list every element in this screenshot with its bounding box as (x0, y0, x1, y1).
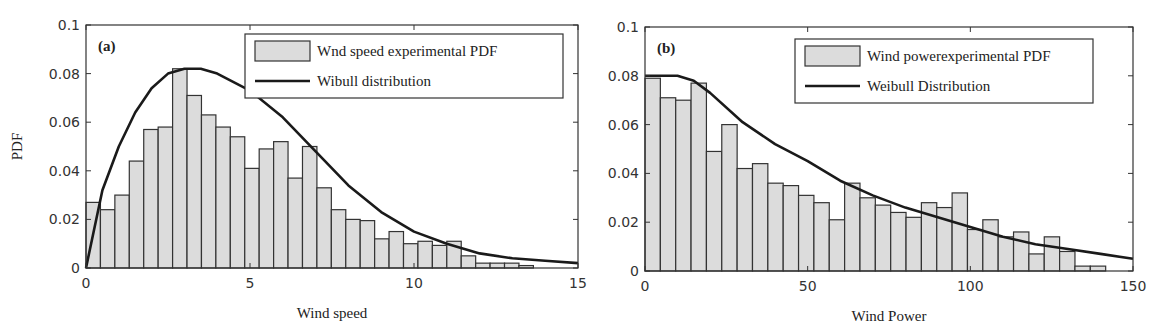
x-tick-label: 5 (246, 275, 255, 291)
histogram-bar (799, 195, 814, 271)
histogram-bar (998, 237, 1013, 271)
histogram-bar (288, 178, 302, 268)
chart-wind-power-pdf: 05010015000.020.040.060.080.1Wind Power(… (608, 19, 1147, 324)
x-tick-label: 0 (82, 275, 91, 291)
histogram-bar (115, 195, 129, 268)
legend-label: Wind powerexperimental PDF (867, 48, 1051, 64)
histogram-bar (490, 263, 504, 268)
x-tick-label: 50 (799, 278, 817, 294)
legend: Wind powerexperimental PDFWeibull Distri… (795, 39, 1093, 103)
y-tick-label: 0.02 (608, 214, 639, 230)
legend: Wnd speed experimental PDFWibull distrib… (245, 34, 563, 98)
histogram-bar (722, 125, 737, 271)
histogram-bar (100, 210, 114, 268)
histogram-bar (418, 241, 432, 268)
y-tick-label: 0 (630, 263, 639, 279)
histogram-bar (645, 78, 660, 271)
histogram-bar (1090, 266, 1105, 271)
histogram-bars (86, 69, 533, 268)
x-tick-label: 10 (405, 275, 423, 291)
histogram-bar (302, 147, 316, 269)
x-tick-label: 150 (1120, 278, 1147, 294)
histogram-bar (783, 186, 798, 271)
histogram-bar (375, 239, 389, 268)
legend-bar-swatch (255, 41, 310, 61)
histogram-bar (144, 129, 158, 268)
y-tick-label: 0.04 (49, 163, 80, 179)
y-tick-label: 0.1 (617, 19, 639, 35)
chart-wind-speed-pdf: 05101500.020.040.060.080.1Wind speedPDF(… (9, 17, 587, 321)
histogram-bar (476, 263, 490, 268)
y-tick-label: 0.1 (58, 17, 80, 33)
histogram-bar (389, 232, 403, 268)
histogram-bar (691, 83, 706, 271)
histogram-bar (331, 210, 345, 268)
histogram-bar (676, 100, 691, 271)
histogram-bar (845, 183, 860, 271)
histogram-bar (768, 183, 783, 271)
histogram-bar (230, 137, 244, 268)
histogram-bar (891, 212, 906, 271)
histogram-bar (1060, 251, 1075, 271)
legend-bar-swatch (805, 46, 860, 66)
histogram-bar (274, 142, 288, 268)
y-tick-label: 0.06 (608, 117, 639, 133)
histogram-bar (1044, 237, 1059, 271)
histogram-bar (158, 127, 172, 268)
panel-label: (b) (657, 40, 675, 57)
histogram-bar (983, 220, 998, 271)
histogram-bar (216, 127, 230, 268)
histogram-bar (737, 169, 752, 271)
y-tick-label: 0.06 (49, 114, 80, 130)
histogram-bar (875, 205, 890, 271)
histogram-bar (860, 198, 875, 271)
histogram-bar (317, 188, 331, 268)
histogram-bar (1075, 266, 1090, 271)
legend-label: Wibull distribution (317, 73, 431, 89)
x-tick-label: 0 (641, 278, 650, 294)
figure-canvas: 05101500.020.040.060.080.1Wind speedPDF(… (0, 0, 1149, 335)
y-tick-label: 0.08 (49, 66, 80, 82)
histogram-bar (906, 217, 921, 271)
x-tick-label: 100 (957, 278, 984, 294)
y-tick-label: 0.04 (608, 165, 639, 181)
histogram-bar (829, 220, 844, 271)
histogram-bar (360, 221, 374, 268)
histogram-bar (404, 244, 418, 268)
histogram-bar (706, 151, 721, 271)
panel-label: (a) (98, 38, 116, 55)
y-axis-title: PDF (9, 133, 25, 161)
y-tick-label: 0.02 (49, 211, 80, 227)
histogram-bar (187, 95, 201, 268)
histogram-bar (129, 161, 143, 268)
histogram-bar (346, 219, 360, 268)
histogram-bar (201, 115, 215, 268)
histogram-bar (660, 98, 675, 271)
histogram-bar (505, 263, 519, 268)
histogram-bar (752, 164, 767, 271)
histogram-bar (259, 149, 273, 268)
y-tick-label: 0.08 (608, 68, 639, 84)
histogram-bar (814, 203, 829, 271)
histogram-bars (645, 78, 1106, 271)
x-axis-title: Wind Power (852, 308, 927, 324)
histogram-bar (461, 256, 475, 268)
histogram-bar (952, 193, 967, 271)
legend-label: Weibull Distribution (867, 78, 991, 94)
histogram-bar (1014, 232, 1029, 271)
legend-label: Wnd speed experimental PDF (317, 43, 497, 59)
histogram-bar (173, 69, 187, 268)
x-axis-title: Wind speed (297, 305, 368, 321)
histogram-bar (245, 168, 259, 268)
histogram-bar (967, 230, 982, 271)
histogram-bar (1029, 254, 1044, 271)
histogram-bar (432, 245, 446, 268)
x-tick-label: 15 (569, 275, 587, 291)
y-tick-label: 0 (71, 260, 80, 276)
